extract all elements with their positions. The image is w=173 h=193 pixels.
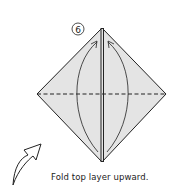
instruction-caption: Fold top layer upward. bbox=[51, 172, 149, 182]
step-number: 6 bbox=[75, 25, 81, 35]
origami-diagram: 6 Fold top layer upward. bbox=[0, 0, 173, 193]
turn-over-arrow-icon bbox=[13, 144, 41, 185]
diagram-canvas: 6 bbox=[0, 0, 173, 193]
